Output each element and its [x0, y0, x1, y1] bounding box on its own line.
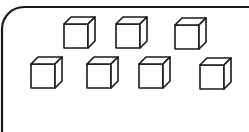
cube-6 [139, 57, 170, 88]
cube-front-face [200, 65, 224, 89]
cube-5 [87, 57, 118, 88]
cube-3 [175, 18, 206, 49]
cube-front-face [175, 25, 199, 49]
cube-front-face [116, 24, 140, 48]
cube-front-face [139, 64, 163, 88]
cube-group [31, 17, 231, 89]
cube-2 [116, 17, 147, 48]
cube-7 [200, 58, 231, 89]
cube-1 [64, 17, 95, 48]
cube-front-face [31, 64, 55, 88]
cube-front-face [87, 64, 111, 88]
cube-front-face [64, 24, 88, 48]
diagram-canvas [0, 0, 249, 132]
cube-4 [31, 57, 62, 88]
